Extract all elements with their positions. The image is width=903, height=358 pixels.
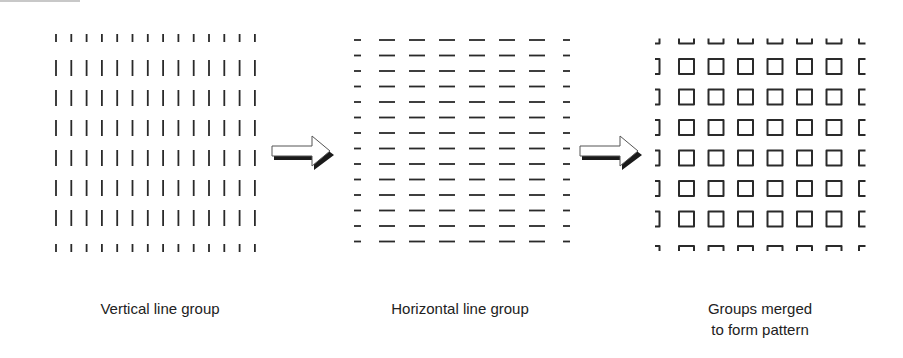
caption-merged-pattern: Groups merged to form pattern <box>660 298 860 340</box>
horizontal-lines-pattern <box>348 30 573 255</box>
caption-text: Horizontal line group <box>391 300 529 317</box>
caption-line-1: Groups merged <box>660 298 860 319</box>
merged-pattern-panel <box>650 28 870 258</box>
caption-horizontal-line-group: Horizontal line group <box>360 298 560 319</box>
vertical-line-group-panel <box>48 28 268 258</box>
right-arrow-icon <box>268 132 338 176</box>
caption-line-2: to form pattern <box>660 319 860 340</box>
right-arrow-icon <box>576 132 646 176</box>
square-grid-pattern <box>650 28 870 258</box>
vertical-lines-pattern <box>48 28 268 258</box>
top-edge-artifact <box>0 0 80 2</box>
caption-vertical-line-group: Vertical line group <box>60 298 260 319</box>
horizontal-line-group-panel <box>348 30 573 255</box>
caption-text: Vertical line group <box>100 300 219 317</box>
